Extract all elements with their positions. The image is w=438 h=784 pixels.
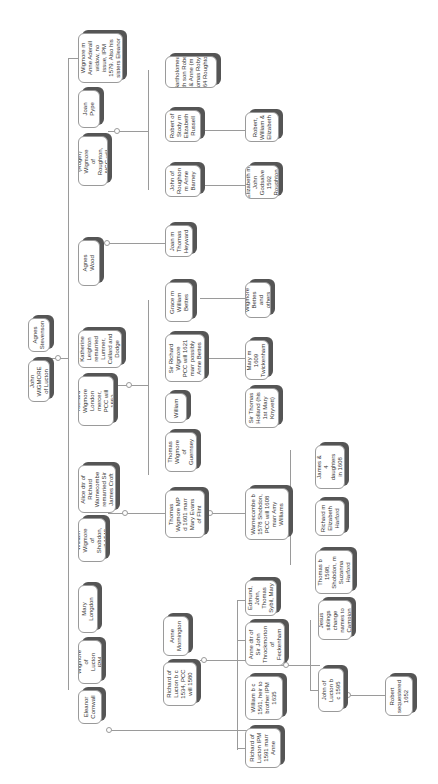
connector bbox=[290, 450, 291, 565]
person-label: Robert of Stody m Elizabeth Russell bbox=[169, 111, 197, 141]
person-node[interactable]: Joan m Thomas Heyward bbox=[165, 225, 193, 257]
person-node[interactable]: William Wigmore of Shobdon, will 1540 bbox=[78, 518, 106, 562]
person-node[interactable]: Eleanor Cornwall bbox=[78, 690, 102, 724]
person-label: Agnes Stevenson bbox=[32, 321, 46, 349]
person-node[interactable]: John Wigmore of Lucton IPM 1546 bbox=[78, 640, 102, 684]
person-node[interactable]: Katherine Leighton remarried Lumner, Cal… bbox=[78, 330, 122, 368]
connector bbox=[237, 600, 238, 750]
person-node[interactable]: Robert sequestered 1652 bbox=[385, 676, 413, 716]
person-label: Joan m Thomas Heyward bbox=[169, 228, 190, 254]
person-label: Anne dtr of Sir John Throckmorton of Fec… bbox=[248, 625, 283, 663]
person-label: Thomas b 1598, Shobdon, m Suzanna Harfor… bbox=[317, 554, 352, 590]
person-node[interactable]: Henry, James & 4 daughters in 1608 will bbox=[315, 445, 345, 489]
person-label: Warnecombe b 1578 Shobdon, PCC will 1608… bbox=[250, 493, 285, 535]
person-label: Grace m William Bettes bbox=[169, 289, 190, 315]
person-label: John of Roughton m Anne Barney bbox=[169, 165, 197, 197]
person-label: Sir Thomas Holland (his 1st Mary Knyvett… bbox=[248, 392, 276, 424]
person-label: Robert sequestered 1652 bbox=[389, 679, 410, 712]
person-label: Mary m 1609 Twickenham bbox=[247, 343, 268, 376]
person-node[interactable]: Thomas Wigmore MP d 1601 marr Mary Evans… bbox=[165, 490, 205, 538]
person-node[interactable]: Agnes Stevenson bbox=[28, 318, 50, 352]
person-label: Richard Wigmore London mercer, PCC will … bbox=[78, 384, 114, 418]
person-label: Agnes Wood bbox=[82, 253, 96, 273]
person-label: Katherine Leighton remarried Lumner, Cal… bbox=[79, 331, 121, 367]
person-label: John of Lucton b c 1595 bbox=[321, 678, 342, 702]
marriage-dot bbox=[122, 510, 128, 516]
person-node[interactable]: Richard Wigmore London mercer, PCC will … bbox=[78, 376, 114, 426]
connector bbox=[310, 620, 311, 690]
person-node[interactable]: Thomas b 1598, Shobdon, m Suzanna Harfor… bbox=[315, 550, 353, 594]
person-label: Richard m Elizabeth Harford bbox=[320, 504, 341, 532]
person-node[interactable]: William bbox=[165, 393, 187, 423]
connector bbox=[148, 70, 149, 190]
person-label: Wigmore Bettes and others bbox=[245, 288, 271, 312]
marriage-dot bbox=[104, 240, 110, 246]
person-label: Henry, James & 4 daughters in 1608 will bbox=[315, 453, 345, 481]
person-node[interactable]: Bartholomew (with son Robert) & Anne (m … bbox=[165, 56, 217, 88]
trunk-line bbox=[68, 170, 69, 690]
person-node[interactable]: Thomas Wigmore m Anne Aderall widow, no … bbox=[78, 33, 123, 83]
person-node[interactable]: Thomas Wigmore of Guernsey bbox=[165, 432, 197, 472]
person-label: William Wigmore of Shobdon, will 1540 bbox=[78, 527, 106, 553]
person-label: Joan Pype bbox=[82, 99, 96, 119]
person-label: Eleanor Cornwall bbox=[83, 695, 97, 718]
person-node[interactable]: Jesus siblings change names to Campion bbox=[318, 600, 352, 640]
person-node[interactable]: William b c 1561, heir to brother IPM 16… bbox=[245, 676, 283, 720]
person-node[interactable]: Anne Mornington bbox=[163, 616, 189, 656]
person-label: Robert (Roger) Wigmore of Roughton, NCC … bbox=[78, 147, 108, 175]
person-node[interactable]: Warnecombe b 1578 Shobdon, PCC will 1608… bbox=[245, 488, 289, 540]
marriage-dot bbox=[114, 128, 120, 134]
connector bbox=[68, 58, 69, 178]
connector bbox=[148, 300, 149, 475]
person-node[interactable]: Robert of Stody m Elizabeth Russell bbox=[165, 110, 201, 142]
person-node[interactable]: Mary Longdon bbox=[78, 585, 98, 633]
marriage-dot bbox=[126, 382, 132, 388]
person-label: William b c 1561, heir to brother IPM 16… bbox=[250, 680, 278, 716]
person-label: Jesus siblings change names to Campion bbox=[318, 604, 352, 636]
person-node[interactable]: Richard of Lucton IPM 1591 marr Anne bbox=[245, 728, 281, 768]
person-label: Elizabeth m John Godsalve 1592 Roughton bbox=[245, 166, 279, 198]
person-node[interactable]: Agnes Wood bbox=[78, 240, 100, 286]
person-label: Thomas Wigmore m Anne Aderall widow, no … bbox=[78, 37, 123, 80]
person-label: Edmund, John, Thomas Sybil, Mary bbox=[247, 583, 275, 613]
person-label: Alice dtr of Richard Warnecombe remarrie… bbox=[80, 471, 115, 507]
person-node[interactable]: John of Roughton m Anne Barney bbox=[165, 165, 201, 197]
person-label: William bbox=[173, 398, 180, 418]
person-label: John WIGMORE of Lucton bbox=[29, 366, 50, 396]
person-label: John Wigmore of Lucton IPM 1546 bbox=[78, 650, 102, 674]
person-node[interactable]: John WIGMORE of Lucton bbox=[28, 360, 50, 402]
person-node[interactable]: Elizabeth m John Godsalve 1592 Roughton bbox=[245, 165, 279, 199]
person-node[interactable]: Edmund, John, Thomas Sybil, Mary bbox=[245, 580, 277, 616]
person-node[interactable]: Mary m 1609 Twickenham bbox=[245, 340, 269, 380]
connector bbox=[68, 58, 78, 59]
person-node[interactable]: Grace m William Bettes bbox=[165, 282, 193, 322]
person-node[interactable]: Robert, William & Elizabeth bbox=[245, 112, 279, 142]
marriage-dot bbox=[55, 355, 61, 361]
person-label: Anne Mornington bbox=[169, 621, 183, 651]
connector bbox=[200, 660, 250, 661]
person-node[interactable]: Richard of Lucton b c 1534, PCC will 158… bbox=[163, 662, 197, 706]
person-node[interactable]: Alice dtr of Richard Warnecombe remarrie… bbox=[78, 465, 116, 513]
person-node[interactable]: Wigmore Bettes and others bbox=[245, 282, 271, 318]
person-label: Bartholomew (with son Robert) & Anne (m … bbox=[174, 56, 209, 88]
person-node[interactable]: Anne dtr of Sir John Throckmorton of Fec… bbox=[245, 622, 285, 666]
person-label: Mary Longdon bbox=[81, 597, 95, 620]
marriage-dot bbox=[345, 692, 351, 698]
person-node[interactable]: Sir Thomas Holland (his 1st Mary Knyvett… bbox=[245, 388, 279, 428]
person-node[interactable]: Joan Pype bbox=[78, 90, 100, 128]
person-label: Thomas Wigmore of Guernsey bbox=[167, 437, 195, 467]
person-node[interactable]: Sir Richard Wigmore PCC will 1621 marr p… bbox=[165, 334, 205, 382]
connector bbox=[108, 730, 248, 731]
marriage-dot bbox=[106, 727, 112, 733]
person-label: Thomas Wigmore MP d 1601 marr Mary Evans… bbox=[168, 495, 203, 533]
person-label: Sir Richard Wigmore PCC will 1621 marr p… bbox=[168, 339, 203, 377]
person-node[interactable]: Richard m Elizabeth Harford bbox=[315, 500, 345, 536]
person-node[interactable]: John of Lucton b c 1595 bbox=[318, 668, 344, 712]
marriage-dot bbox=[201, 657, 207, 663]
person-node[interactable]: Robert (Roger) Wigmore of Roughton, NCC … bbox=[78, 136, 108, 186]
person-label: Richard of Lucton IPM 1591 marr Anne bbox=[249, 731, 277, 765]
connector bbox=[345, 695, 385, 696]
marriage-dot bbox=[207, 510, 213, 516]
person-label: Richard of Lucton b c 1534, PCC will 158… bbox=[166, 668, 194, 700]
person-label: Robert, William & Elizabeth bbox=[252, 112, 273, 142]
